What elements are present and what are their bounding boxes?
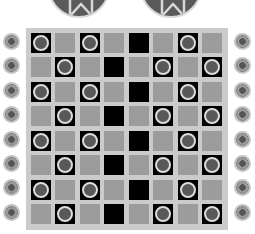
board-cell-gray[interactable] (202, 180, 222, 200)
ribbon-badge-icon (50, 0, 110, 18)
board-cell-gray[interactable] (55, 82, 75, 102)
board-cell-gray[interactable] (31, 155, 51, 175)
board-cell-piece[interactable] (55, 57, 75, 77)
board-cell-piece[interactable] (153, 155, 173, 175)
board-cell-gray[interactable] (55, 131, 75, 151)
board-cell-gray[interactable] (104, 131, 124, 151)
game-piece-icon[interactable] (204, 108, 220, 124)
board-cell-gray[interactable] (31, 57, 51, 77)
flower-ornament-icon (234, 106, 251, 123)
game-piece-icon[interactable] (82, 182, 98, 198)
game-piece-icon[interactable] (155, 157, 171, 173)
game-piece-icon[interactable] (180, 133, 196, 149)
board-cell-gray[interactable] (153, 33, 173, 53)
board-cell-gray[interactable] (80, 155, 100, 175)
board-cell-piece[interactable] (178, 180, 198, 200)
board-cell-piece[interactable] (178, 33, 198, 53)
game-piece-icon[interactable] (204, 206, 220, 222)
game-piece-icon[interactable] (82, 84, 98, 100)
game-piece-icon[interactable] (204, 157, 220, 173)
board-row (31, 180, 223, 200)
board-cell-gray[interactable] (178, 204, 198, 224)
game-piece-icon[interactable] (155, 108, 171, 124)
board-cell-gray[interactable] (129, 155, 149, 175)
board-cell-piece[interactable] (202, 204, 222, 224)
board-cell-piece[interactable] (31, 33, 51, 53)
board-cell-gray[interactable] (104, 82, 124, 102)
board-cell-piece[interactable] (31, 82, 51, 102)
board-cell-piece[interactable] (202, 57, 222, 77)
board-cell-gray[interactable] (178, 57, 198, 77)
game-piece-icon[interactable] (82, 133, 98, 149)
board-cell-gray[interactable] (202, 82, 222, 102)
board-cell-gray[interactable] (55, 33, 75, 53)
board-cell-black[interactable] (104, 155, 124, 175)
board-cell-gray[interactable] (31, 106, 51, 126)
board-cell-black[interactable] (129, 131, 149, 151)
board-cell-gray[interactable] (129, 204, 149, 224)
game-piece-icon[interactable] (155, 206, 171, 222)
board-cell-piece[interactable] (80, 82, 100, 102)
board-cell-gray[interactable] (129, 106, 149, 126)
board-cell-gray[interactable] (80, 204, 100, 224)
board-cell-gray[interactable] (202, 131, 222, 151)
board-cell-gray[interactable] (80, 106, 100, 126)
board-cell-gray[interactable] (153, 131, 173, 151)
board-cell-piece[interactable] (31, 131, 51, 151)
game-piece-icon[interactable] (155, 59, 171, 75)
player-token-right[interactable] (140, 0, 202, 18)
game-piece-icon[interactable] (82, 35, 98, 51)
board-cell-piece[interactable] (80, 131, 100, 151)
game-piece-icon[interactable] (57, 108, 73, 124)
board-cell-gray[interactable] (129, 57, 149, 77)
board-cell-black[interactable] (104, 106, 124, 126)
board-row (31, 33, 223, 53)
board-cell-piece[interactable] (178, 131, 198, 151)
game-piece-icon[interactable] (180, 84, 196, 100)
board-cell-black[interactable] (104, 204, 124, 224)
board-cell-gray[interactable] (178, 155, 198, 175)
player-token-left[interactable] (48, 0, 110, 18)
board-cell-piece[interactable] (153, 204, 173, 224)
board-cell-piece[interactable] (55, 204, 75, 224)
board-cell-gray[interactable] (104, 33, 124, 53)
board-cell-piece[interactable] (153, 57, 173, 77)
board-cell-piece[interactable] (178, 82, 198, 102)
board-cell-black[interactable] (104, 57, 124, 77)
board-cell-gray[interactable] (80, 57, 100, 77)
board-cell-black[interactable] (129, 33, 149, 53)
flower-ornament-icon (3, 106, 20, 123)
game-piece-icon[interactable] (57, 59, 73, 75)
board-cell-piece[interactable] (80, 33, 100, 53)
board-cell-piece[interactable] (153, 106, 173, 126)
board-row (31, 155, 223, 175)
board-cell-gray[interactable] (104, 180, 124, 200)
board-cell-piece[interactable] (202, 106, 222, 126)
board-row (31, 57, 223, 77)
board-cell-piece[interactable] (55, 155, 75, 175)
board-cell-gray[interactable] (153, 82, 173, 102)
game-piece-icon[interactable] (33, 133, 49, 149)
game-piece-icon[interactable] (57, 206, 73, 222)
board-cell-gray[interactable] (178, 106, 198, 126)
game-piece-icon[interactable] (33, 35, 49, 51)
board-cell-piece[interactable] (55, 106, 75, 126)
game-piece-icon[interactable] (33, 84, 49, 100)
board-cell-gray[interactable] (55, 180, 75, 200)
board-cell-black[interactable] (129, 82, 149, 102)
game-piece-icon[interactable] (180, 35, 196, 51)
game-piece-icon[interactable] (180, 182, 196, 198)
board-cell-piece[interactable] (202, 155, 222, 175)
flower-ornament-icon (3, 57, 20, 74)
flower-ornament-icon (234, 204, 251, 221)
board-cell-black[interactable] (129, 180, 149, 200)
board-cell-gray[interactable] (153, 180, 173, 200)
board-cell-gray[interactable] (202, 33, 222, 53)
board-cell-gray[interactable] (31, 204, 51, 224)
game-piece-icon[interactable] (57, 157, 73, 173)
game-piece-icon[interactable] (33, 182, 49, 198)
flower-ornament-icon (3, 155, 20, 172)
game-piece-icon[interactable] (204, 59, 220, 75)
board-cell-piece[interactable] (80, 180, 100, 200)
board-cell-piece[interactable] (31, 180, 51, 200)
